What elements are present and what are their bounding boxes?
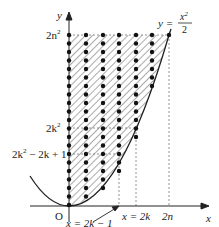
lattice-parabola-diagram: y x O 2n2 2k2 2k2 − 2k + 1 x = 2k 2n x =… (0, 0, 219, 227)
svg-text:x2: x2 (179, 10, 188, 22)
curve-equation: y = x2 2 (157, 10, 192, 35)
svg-text:y =: y = (157, 17, 173, 29)
y-tick-2k2-2k-1: 2k2 − 2k + 1 (12, 147, 66, 160)
x-tick-2k: x = 2k (121, 210, 151, 222)
x-axis-label: x (205, 212, 211, 224)
y-axis-label: y (56, 9, 62, 21)
svg-text:2: 2 (182, 24, 187, 35)
origin-label: O (55, 210, 63, 222)
y-tick-2n2: 2n2 (46, 28, 61, 41)
y-tick-2k2: 2k2 (46, 121, 61, 134)
x-tick-2n: 2n (162, 210, 174, 222)
x-tick-2k-minus-1: x = 2k − 1 (65, 217, 113, 227)
